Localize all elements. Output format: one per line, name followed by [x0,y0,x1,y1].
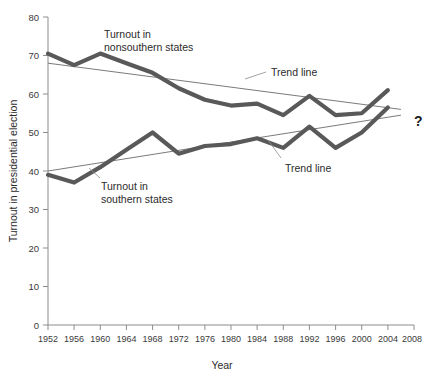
x-tick-label-1964: 1964 [116,334,136,344]
annotation-question-mark: ? [414,113,423,129]
y-tick-label-40: 40 [28,166,39,177]
chart-canvas: 0 10 20 30 40 50 60 70 80 1952 19 [0,0,438,381]
x-tick-label-1972: 1972 [169,334,189,344]
x-tick-label-1968: 1968 [143,334,163,344]
annotation-southern-line2: southern states [101,193,173,205]
x-tick-label-1952: 1952 [38,334,58,344]
x-tick-label-1956: 1956 [64,334,84,344]
leader-line-trend-upper [245,72,266,79]
series-line-southern [48,107,388,182]
y-tick-label-10: 10 [28,281,39,292]
x-tick-label-1992: 1992 [299,334,319,344]
annotation-trend-lower: Trend line [285,162,331,174]
x-tick-label-1996: 1996 [326,334,346,344]
series-line-nonsouthern [48,54,388,116]
annotation-trend-upper: Trend line [271,66,317,78]
y-tick-label-80: 80 [28,12,39,23]
x-tick-label-2000: 2000 [352,334,372,344]
x-tick-label-1984: 1984 [247,334,267,344]
x-tick-label-1980: 1980 [221,334,241,344]
x-tick-label-2008: 2008 [402,334,422,344]
y-tick-label-50: 50 [28,127,39,138]
y-tick-label-70: 70 [28,50,39,61]
y-tick-label-30: 30 [28,204,39,215]
turnout-chart: 0 10 20 30 40 50 60 70 80 1952 19 [0,0,438,381]
x-axis-title: Year [211,359,233,371]
annotation-nonsouthern-line2: nonsouthern states [104,41,193,53]
annotation-southern-line1: Turnout in [101,180,148,192]
y-tick-label-20: 20 [28,243,39,254]
x-tick-label-1976: 1976 [195,334,215,344]
x-tick-label-1988: 1988 [273,334,293,344]
annotation-nonsouthern-line1: Turnout in [104,28,151,40]
y-tick-label-0: 0 [34,320,39,331]
x-tick-label-2004: 2004 [378,334,398,344]
x-tick-label-1960: 1960 [90,334,110,344]
y-tick-label-60: 60 [28,89,39,100]
x-axis-ticks [48,325,414,330]
y-axis-title: Turnout in presidential election [7,100,19,243]
y-axis-ticks [43,17,48,325]
